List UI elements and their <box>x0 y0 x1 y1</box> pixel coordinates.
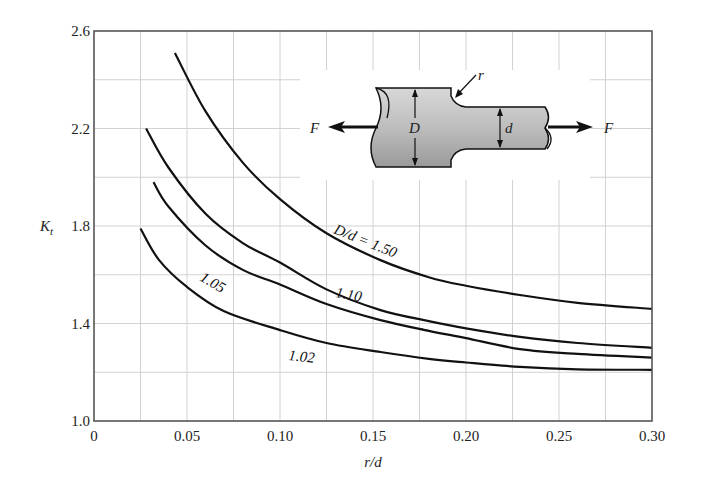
x-tick-label: 0.05 <box>174 428 200 444</box>
y-tick-label: 1.0 <box>71 413 90 429</box>
x-tick-label: 0.25 <box>546 428 572 444</box>
y-tick-label: 1.8 <box>71 218 90 234</box>
dimension-D-label: D <box>408 120 420 136</box>
curve-label-1-10: 1.10 <box>334 284 363 304</box>
dimension-d-label: d <box>505 120 513 136</box>
stress-concentration-chart: F F D d r 00.050.100.150.200.250.30 1.01… <box>0 0 701 499</box>
force-label-right: F <box>603 120 614 136</box>
y-tick-labels: 1.01.41.82.22.6 <box>71 23 90 429</box>
curve-label-1-02: 1.02 <box>288 347 316 366</box>
force-label-left: F <box>309 120 320 136</box>
x-tick-label: 0.20 <box>453 428 479 444</box>
x-tick-label: 0.30 <box>639 428 665 444</box>
y-tick-label: 2.2 <box>71 121 90 137</box>
curve-label-1-05: 1.05 <box>198 269 229 296</box>
x-tick-label: 0.15 <box>360 428 386 444</box>
y-tick-label: 2.6 <box>71 23 90 39</box>
fillet-radius-label: r <box>478 67 484 83</box>
y-axis-label-subscript: t <box>50 225 54 237</box>
y-axis-label: Kt <box>39 218 54 237</box>
x-axis-label: r/d <box>364 454 382 470</box>
x-tick-label: 0 <box>90 428 98 444</box>
x-tick-labels: 00.050.100.150.200.250.30 <box>90 428 665 444</box>
y-tick-label: 1.4 <box>71 316 90 332</box>
x-tick-label: 0.10 <box>267 428 293 444</box>
inset-shaft-diagram: F F D d r <box>300 67 614 180</box>
